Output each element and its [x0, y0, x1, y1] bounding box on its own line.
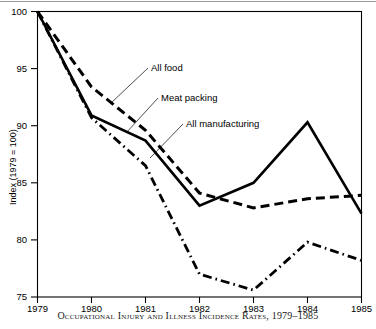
figure-container: 100 95 90 85 80 75 Index (1979 = 100) 19… [0, 0, 376, 329]
figure-caption: Occupational Injury and Illness Incidenc… [0, 310, 376, 321]
y-tick-label-90: 90 [16, 120, 27, 131]
series-line-all-food [38, 12, 362, 208]
y-tick-label-95: 95 [16, 63, 27, 74]
plot-frame [38, 12, 362, 298]
series-line-all-manufacturing [38, 12, 362, 291]
annotation-meat-packing: Meat packing [161, 92, 218, 103]
y-tick-label-85: 85 [16, 177, 27, 188]
y-axis-ticks [31, 12, 38, 298]
y-tick-label-75: 75 [16, 291, 27, 302]
y-axis-title: Index (1979 = 100) [8, 129, 18, 205]
y-tick-label-100: 100 [11, 6, 27, 17]
leader-line-all-food [110, 68, 148, 104]
annotation-all-manufacturing: All manufacturing [186, 118, 259, 129]
series-line-meat-packing [38, 12, 362, 214]
line-chart: 100 95 90 85 80 75 Index (1979 = 100) 19… [0, 0, 376, 329]
y-tick-label-80: 80 [16, 234, 27, 245]
annotation-all-food: All food [151, 62, 183, 73]
